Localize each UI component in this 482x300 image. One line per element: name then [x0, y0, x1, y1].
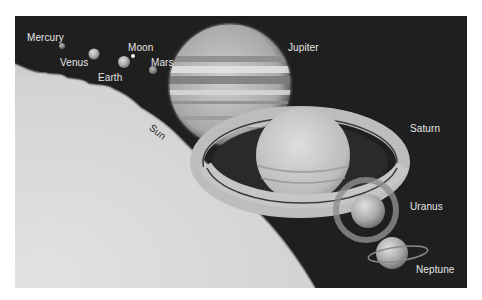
- moon-body: [131, 54, 135, 58]
- saturn-label: Saturn: [410, 123, 440, 134]
- mars-label: Mars: [151, 57, 174, 68]
- jupiter-label: Jupiter: [288, 42, 319, 53]
- moon-label: Moon: [128, 42, 153, 53]
- venus-body: [89, 49, 100, 60]
- mercury-body: [59, 43, 65, 49]
- venus-label: Venus: [60, 57, 88, 68]
- uranus-label: Uranus: [410, 201, 443, 212]
- earth-body: [118, 56, 130, 68]
- solar-system-size-comparison: Mercury Venus Earth Moon Mars Jupiter Sa…: [15, 16, 467, 288]
- earth-label: Earth: [98, 72, 122, 83]
- neptune-label: Neptune: [416, 264, 455, 275]
- mercury-label: Mercury: [27, 32, 64, 43]
